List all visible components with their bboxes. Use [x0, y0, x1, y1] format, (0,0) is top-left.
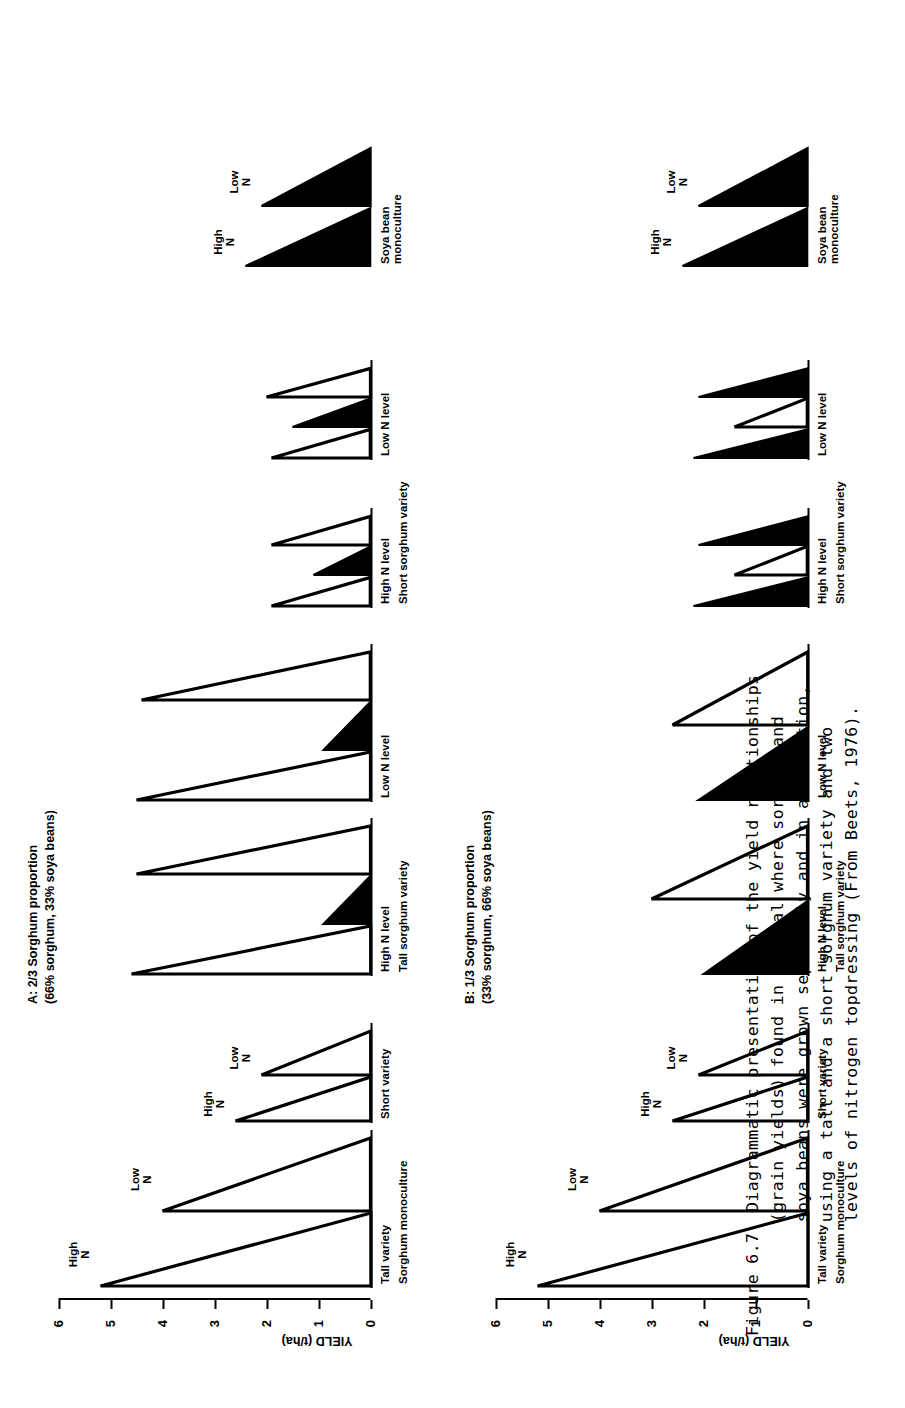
y-axis-tick-label: 6: [51, 1320, 64, 1340]
sorghum-wedge: [136, 824, 370, 874]
y-axis-tick-label: 2: [259, 1320, 272, 1340]
soya-bean-wedge: [323, 874, 370, 924]
soya-bean-wedge: [698, 146, 807, 206]
y-axis-tick: [495, 1300, 497, 1309]
y-axis-tick: [370, 1300, 372, 1309]
soya-bean-wedge: [313, 545, 370, 576]
group-label: Short sorghum variety: [396, 481, 408, 604]
soya-bean-wedge: [698, 366, 807, 397]
y-axis-tick-label: 6: [488, 1320, 501, 1340]
panel-title-line2: (33% sorghum, 66% soya beans): [478, 810, 495, 1004]
figure-caption-line: levels of nitrogen topdressing (From Bee…: [841, 706, 860, 1336]
cluster-label: High N level: [378, 538, 390, 604]
soya-bean-wedge: [245, 206, 370, 266]
sorghum-wedge: [136, 750, 370, 800]
n-level-label: Low N: [565, 1142, 589, 1217]
cluster-label: Low N level: [815, 393, 827, 456]
cluster-label: High N level: [378, 906, 390, 972]
cluster-label: Low N level: [378, 735, 390, 798]
sorghum-wedge: [261, 1029, 370, 1075]
n-level-label: Low N: [128, 1142, 152, 1217]
y-axis-tick-label: 0: [363, 1320, 376, 1340]
y-axis-tick: [547, 1300, 549, 1309]
soya-bean-wedge: [261, 146, 370, 206]
soya-bean-wedge: [682, 206, 807, 266]
cluster-label: Soya bean monoculture: [815, 194, 839, 264]
n-level-label: High N: [66, 1217, 90, 1292]
y-axis-tick: [703, 1300, 705, 1309]
y-axis-tick-label: 5: [103, 1320, 116, 1340]
cluster-label: Low N level: [378, 393, 390, 456]
cluster-label: Tall variety: [378, 1225, 390, 1284]
y-axis-tick: [58, 1300, 60, 1309]
panel-title-line2: (66% sorghum, 33% soya beans): [41, 810, 58, 1004]
figure-caption-line: soya beans were grown separately and in …: [792, 685, 811, 1336]
n-level-label: High N: [201, 1081, 225, 1127]
sorghum-wedge: [271, 514, 370, 545]
y-axis-tick-label: 2: [696, 1320, 709, 1340]
sorghum-wedge: [100, 1211, 370, 1286]
y-axis-tick: [599, 1300, 601, 1309]
cluster-label: Short variety: [378, 1049, 390, 1119]
figure-caption: Figure 6.7 Diagrammatic presentation of …: [740, 506, 864, 1336]
n-level-label: High N: [648, 212, 672, 272]
y-axis-title: YIELD (t/ha): [281, 1334, 352, 1348]
panel-a: A: 2/3 Sorghum proportion(66% sorghum, 3…: [18, 0, 438, 1408]
y-axis-tick: [318, 1300, 320, 1309]
n-level-label: Low N: [227, 1035, 251, 1081]
soya-bean-wedge: [292, 397, 370, 428]
figure-caption-line: Diagrammatic presentation of the yield r…: [742, 675, 761, 1212]
panel-title-line1: B: 1/3 Sorghum proportion: [461, 810, 478, 1004]
n-level-label: High N: [211, 212, 235, 272]
sorghum-wedge: [271, 427, 370, 458]
scanned-figure-page: A: 2/3 Sorghum proportion(66% sorghum, 3…: [0, 0, 905, 1408]
y-axis-tick-label: 3: [207, 1320, 220, 1340]
y-axis-tick: [651, 1300, 653, 1309]
sorghum-wedge: [271, 575, 370, 606]
panel-title: A: 2/3 Sorghum proportion(66% sorghum, 3…: [24, 810, 58, 1004]
sorghum-wedge: [266, 366, 370, 397]
sorghum-wedge: [141, 650, 370, 700]
sorghum-wedge: [235, 1075, 370, 1121]
cluster-label: Soya bean monoculture: [378, 194, 402, 264]
panel-title-line1: A: 2/3 Sorghum proportion: [24, 810, 41, 1004]
sorghum-wedge: [162, 1136, 370, 1211]
figure-caption-line: using a tall and a short sorghum variety…: [816, 726, 835, 1336]
y-axis-title: YIELD (t/ha): [718, 1334, 789, 1348]
y-axis-tick: [110, 1300, 112, 1309]
group-label: Sorghum monoculture: [396, 1161, 408, 1284]
n-level-label: Low N: [227, 152, 251, 212]
y-axis-tick: [162, 1300, 164, 1309]
y-axis-tick-label: 4: [592, 1320, 605, 1340]
n-level-label: Low N: [664, 152, 688, 212]
sorghum-wedge: [734, 397, 807, 428]
panel-title: B: 1/3 Sorghum proportion(33% sorghum, 6…: [461, 810, 495, 1004]
sorghum-wedge: [131, 924, 370, 974]
y-axis-tick-label: 3: [644, 1320, 657, 1340]
y-axis-tick-label: 4: [155, 1320, 168, 1340]
figure-number: Figure 6.7: [742, 1212, 761, 1336]
n-level-label: High N: [638, 1081, 662, 1127]
y-axis-tick-label: 5: [540, 1320, 553, 1340]
soya-bean-wedge: [323, 700, 370, 750]
y-axis-tick: [214, 1300, 216, 1309]
n-level-label: High N: [503, 1217, 527, 1292]
figure-caption-line: (grain yields) found in a trial where so…: [767, 716, 786, 1336]
group-label: Tall sorghum variety: [396, 860, 408, 972]
y-axis-tick: [266, 1300, 268, 1309]
n-level-label: Low N: [664, 1035, 688, 1081]
soya-bean-wedge: [693, 427, 807, 458]
